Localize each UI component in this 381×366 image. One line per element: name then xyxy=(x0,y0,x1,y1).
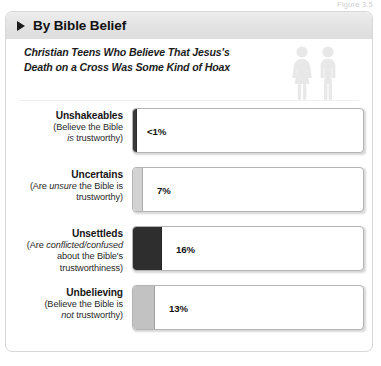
chart-row-label: Unbelieving (Believe the Bible is not tr… xyxy=(6,285,132,322)
bar-fill xyxy=(133,286,155,329)
figure-number-label: Figure 3.5 xyxy=(337,0,373,9)
card-header-title: By Bible Belief xyxy=(33,18,126,33)
chart-subtitle-line-2: Death on a Cross Was Some Kind of Hoax xyxy=(24,60,284,75)
bar-track: <1% xyxy=(132,108,364,153)
bar-track: 7% xyxy=(132,167,364,212)
bar-fill xyxy=(133,109,137,152)
triangle-right-icon xyxy=(17,21,25,31)
row-desc-post: trustworthy) xyxy=(74,310,123,320)
two-people-icon xyxy=(288,44,344,102)
bar-value-label: 7% xyxy=(157,184,171,195)
row-desc-post: trustworthy) xyxy=(74,133,123,143)
chart-row-label: Unsettleds (Are conflicted/confused abou… xyxy=(6,226,132,274)
bar-value-label: 13% xyxy=(169,302,188,313)
row-desc-pre: (Believe the Bible xyxy=(53,122,123,132)
header-separator xyxy=(19,100,359,101)
chart-row: Unshakeables (Believe the Bibleis trustw… xyxy=(6,108,372,156)
row-desc-pre: (Are xyxy=(27,240,46,250)
chart-row: Uncertains (Are unsure the Bible is trus… xyxy=(6,167,372,215)
row-desc-pre: (Believe the Bible is xyxy=(44,299,123,309)
bar-track: 13% xyxy=(132,285,364,330)
bar-value-label: 16% xyxy=(176,243,195,254)
bar-fill xyxy=(133,227,162,270)
bar-fill xyxy=(133,168,143,211)
bar-value-label: <1% xyxy=(147,125,166,136)
chart-row-title: Unbelieving xyxy=(6,287,123,299)
chart-subtitle: Christian Teens Who Believe That Jesus's… xyxy=(24,45,284,74)
row-desc-emphasis: unsure xyxy=(49,181,77,191)
chart-row-description: (Believe the Bibleis trustworthy) xyxy=(6,122,123,145)
chart-row-description: (Are unsure the Bible is trustworthy) xyxy=(6,181,123,204)
chart-row-label: Unshakeables (Believe the Bibleis trustw… xyxy=(6,108,132,145)
chart-row-title: Uncertains xyxy=(6,169,123,181)
row-desc-emphasis: not xyxy=(61,310,73,320)
card-header: By Bible Belief xyxy=(6,12,372,39)
chart-row-label: Uncertains (Are unsure the Bible is trus… xyxy=(6,167,132,204)
chart-row-title: Unsettleds xyxy=(6,228,123,240)
row-desc-post: the Bible is trustworthy) xyxy=(76,181,123,202)
chart-row-description: (Believe the Bible is not trustworthy) xyxy=(6,299,123,322)
row-desc-emphasis: conflicted/confused xyxy=(46,240,123,250)
bar-track: 16% xyxy=(132,226,364,271)
bar-chart-rows: Unshakeables (Believe the Bibleis trustw… xyxy=(6,108,372,344)
chart-row-title: Unshakeables xyxy=(6,110,123,122)
row-desc-post: about the Bible's trustworthiness) xyxy=(57,251,123,272)
chart-subtitle-line-1: Christian Teens Who Believe That Jesus's xyxy=(24,45,284,60)
chart-row: Unsettleds (Are conflicted/confused abou… xyxy=(6,226,372,274)
chart-card: By Bible Belief Christian Teens Who Beli… xyxy=(5,11,373,352)
chart-row: Unbelieving (Believe the Bible is not tr… xyxy=(6,285,372,333)
row-desc-pre: (Are xyxy=(30,181,49,191)
chart-row-description: (Are conflicted/confused about the Bible… xyxy=(6,240,123,274)
